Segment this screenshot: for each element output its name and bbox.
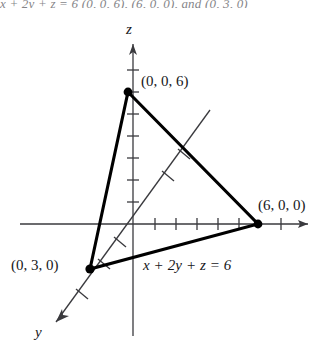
- x-axis: [20, 218, 308, 230]
- y-axis-label: y: [35, 325, 42, 340]
- vertex-point-y: [85, 264, 94, 273]
- z-axis-label: z: [126, 22, 132, 37]
- vertex-label-z: (0, 0, 6): [141, 74, 189, 89]
- figure-root: x + 2y + z = 6 (0, 0, 6), (6, 0, 0), and…: [0, 0, 326, 354]
- plane-equation-label: x + 2y + z = 6: [143, 258, 231, 273]
- vertex-label-y: (0, 3, 0): [11, 258, 59, 273]
- vertex-point-z: [124, 88, 133, 97]
- coordinate-plot: [0, 0, 326, 354]
- vertex-point-x: [254, 220, 263, 229]
- vertex-label-x: (6, 0, 0): [258, 198, 306, 213]
